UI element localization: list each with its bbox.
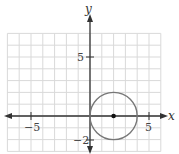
x-tick-label-5: 5 xyxy=(145,121,152,134)
circle-center-point xyxy=(111,114,116,119)
x-axis-right-arrow-icon xyxy=(160,113,168,119)
coordinate-plane: −5 5 5 −2 x y xyxy=(0,0,179,154)
y-tick-label-neg2: −2 xyxy=(73,134,89,147)
y-axis-label: y xyxy=(84,2,92,16)
y-axis-down-arrow-icon xyxy=(87,146,93,154)
x-tick-label-neg5: −5 xyxy=(24,121,40,134)
x-axis-left-arrow-icon xyxy=(4,113,12,119)
y-tick-label-5: 5 xyxy=(77,51,84,64)
x-axis-label: x xyxy=(168,109,175,123)
